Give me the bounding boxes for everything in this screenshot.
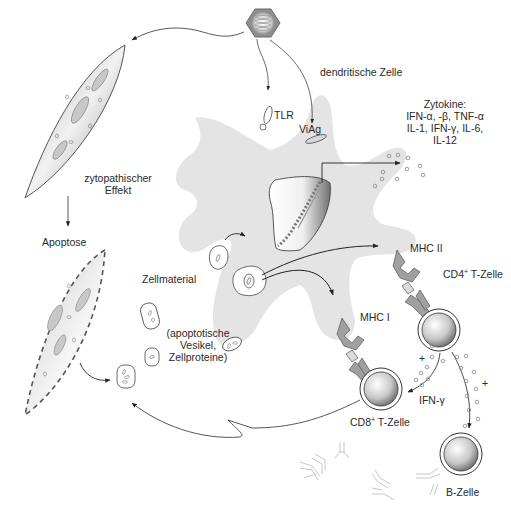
label-mhc1: MHC I bbox=[360, 311, 390, 323]
cytokines-heading: Zytokine: bbox=[390, 98, 500, 110]
label-tlr: TLR bbox=[274, 109, 294, 121]
arrow-virus-to-cell bbox=[132, 28, 244, 40]
label-cytokines: Zytokine: IFN-α, -β, TNF-α IL-1, IFN-γ, … bbox=[390, 98, 500, 146]
endosome bbox=[233, 266, 266, 295]
label-ifn-gamma: IFN-γ bbox=[419, 394, 445, 406]
cd8-prefix: CD8 bbox=[350, 416, 371, 428]
cd8-suffix: T-Zelle bbox=[375, 416, 410, 428]
arrow-apoptosis-to-vesicle bbox=[80, 363, 110, 380]
cytokines-line-1: IFN-α, -β, TNF-α bbox=[390, 110, 500, 122]
vesicles-line-1: (apoptotische bbox=[158, 327, 238, 339]
vesicles-line-3: Zellproteine) bbox=[158, 351, 238, 363]
label-viag: ViAg bbox=[299, 123, 321, 135]
label-vesicles: (apoptotische Vesikel, Zellproteine) bbox=[158, 327, 238, 363]
label-b-cell: B-Zelle bbox=[446, 486, 479, 498]
label-cd8-t-cell: CD8+ T-Zelle bbox=[350, 416, 410, 428]
cytopathic-line-1: zytopathischer bbox=[68, 172, 168, 184]
label-cell-material: Zellmaterial bbox=[142, 273, 196, 285]
label-dendritic-cell: dendritische Zelle bbox=[320, 66, 402, 78]
label-plus-1: + bbox=[419, 352, 425, 364]
immune-response-diagram bbox=[0, 0, 511, 514]
label-apoptosis: Apoptose bbox=[42, 236, 86, 248]
arrow-virus-to-tlr bbox=[257, 39, 268, 90]
cytokines-line-2: IL-1, IFN-γ, IL-6, bbox=[390, 122, 500, 134]
arrow-cd4-to-bcell bbox=[452, 352, 470, 428]
label-plus-2: + bbox=[482, 377, 488, 389]
label-cd4-t-cell: CD4+ T-Zelle bbox=[443, 268, 503, 280]
virus-icon bbox=[246, 9, 280, 37]
vesicle-entering bbox=[209, 246, 228, 270]
cytokines-line-3: IL-12 bbox=[390, 134, 500, 146]
label-mhc2: MHC II bbox=[410, 242, 443, 254]
antibodies-icon bbox=[300, 442, 440, 500]
cd8-t-cell bbox=[360, 368, 402, 410]
label-cytopathic-effect: zytopathischer Effekt bbox=[68, 172, 168, 196]
cd4-t-cell bbox=[418, 309, 460, 351]
arrow-cd8-to-vesicles bbox=[132, 400, 360, 437]
b-cell bbox=[440, 433, 482, 475]
apoptotic-cell bbox=[25, 250, 105, 415]
mhc2-tcr-complex bbox=[393, 250, 430, 318]
vesicles-line-2: Vesikel, bbox=[158, 339, 238, 351]
cytopathic-line-2: Effekt bbox=[68, 184, 168, 196]
cd4-prefix: CD4 bbox=[443, 268, 464, 280]
cd4-suffix: T-Zelle bbox=[468, 268, 503, 280]
tlr-receptor-icon bbox=[260, 105, 274, 130]
